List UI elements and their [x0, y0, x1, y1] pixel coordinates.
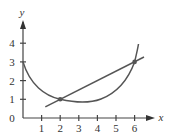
x-tick-2: 2 [57, 122, 63, 134]
y-tick-4: 4 [9, 37, 15, 49]
intersection-point-1 [58, 97, 63, 102]
x-tick-4: 4 [95, 122, 101, 134]
y-tick-1: 1 [9, 93, 15, 105]
y-tick-3: 3 [9, 56, 15, 68]
x-tick-3: 3 [76, 122, 82, 134]
origin-label: 0 [9, 112, 15, 124]
x-tick-5: 5 [113, 122, 119, 134]
x-tick-1: 1 [39, 122, 45, 134]
intersection-point-2 [132, 60, 137, 65]
y-tick-2: 2 [9, 75, 15, 87]
y-axis-arrow-icon [20, 20, 26, 29]
x-tick-6: 6 [132, 122, 138, 134]
chart: 1 2 3 4 5 6 0 1 2 3 4 y x [0, 0, 173, 138]
x-axis-label: x [158, 111, 164, 123]
y-axis-label: y [19, 6, 25, 18]
x-axis-arrow-icon [146, 115, 155, 121]
curve-series [23, 44, 139, 102]
